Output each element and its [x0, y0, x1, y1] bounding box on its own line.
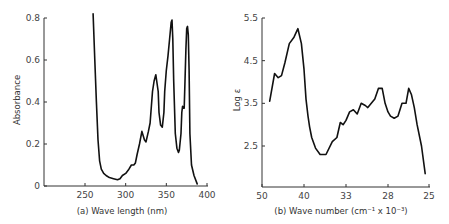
y-tick-label: 5.5 [244, 13, 258, 23]
x-tick-label: 28 [382, 191, 394, 201]
chart-a: 00.20.40.60.8 250300350400 Absorbance (a… [12, 13, 216, 216]
x-tick-label: 40 [298, 191, 310, 201]
y-tick-label: 0.8 [26, 13, 41, 23]
y-tick-label: 0 [34, 181, 40, 191]
x-tick-label: 400 [198, 190, 215, 200]
y-tick-label: 0.4 [26, 97, 41, 107]
chart-b-curve [270, 29, 426, 174]
figure: 00.20.40.60.8 250300350400 Absorbance (a… [0, 0, 449, 224]
y-tick-label: 0.6 [26, 55, 41, 65]
y-tick-label: 2.5 [244, 141, 258, 151]
x-tick-label: 250 [76, 190, 93, 200]
chart-a-y-label: Absorbance [12, 75, 22, 125]
x-tick-label: 300 [117, 190, 134, 200]
chart-a-caption: (a) Wave length (nm) [77, 206, 168, 216]
x-tick-label: 350 [158, 190, 175, 200]
y-tick-label: 0.2 [26, 139, 40, 149]
y-tick-label: 3.5 [244, 98, 258, 108]
chart-b: 2.53.54.55.5 5040332825 Log ε (b) Wave n… [232, 13, 435, 216]
x-tick-label: 50 [256, 191, 268, 201]
chart-a-curve [93, 14, 197, 184]
x-tick-label: 33 [340, 191, 351, 201]
chart-b-y-label: Log ε [232, 88, 242, 111]
x-tick-label: 25 [423, 191, 434, 201]
chart-b-caption: (b) Wave number (cm⁻¹ x 10⁻³) [274, 206, 407, 216]
y-tick-label: 4.5 [244, 56, 258, 66]
